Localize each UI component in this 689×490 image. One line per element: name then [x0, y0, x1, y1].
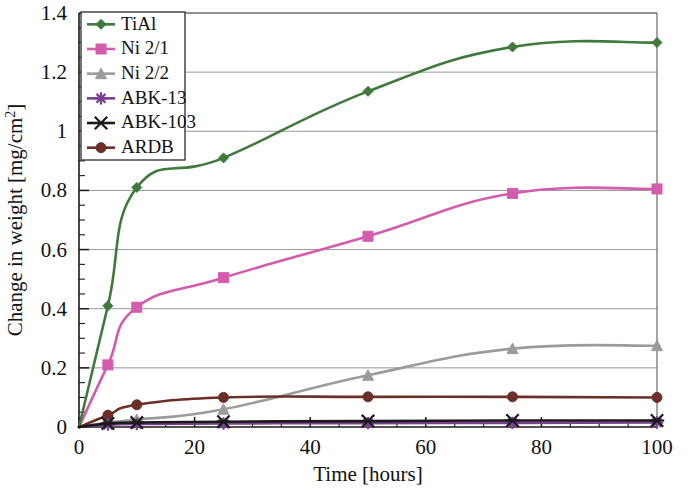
marker-diamond — [219, 153, 229, 163]
marker-star — [217, 417, 229, 429]
marker-diamond — [508, 42, 518, 52]
y-tick-label: 0.8 — [41, 178, 67, 202]
legend-label: ABK-13 — [121, 87, 186, 108]
x-tick-label: 20 — [184, 435, 205, 459]
y-tick-label: 0 — [57, 415, 68, 439]
legend-label: ARDB — [121, 136, 174, 157]
marker-square — [219, 273, 229, 283]
y-axis-title-group: Change in weight [mg/cm2] — [3, 104, 27, 337]
weight-change-line-chart: 00.20.40.60.811.21.4020406080100 Time [h… — [0, 0, 689, 490]
marker-square — [132, 302, 142, 312]
marker-circle — [652, 392, 662, 402]
marker-square — [363, 231, 373, 241]
marker-square — [652, 184, 662, 194]
series-line — [79, 345, 657, 427]
marker-circle — [219, 392, 229, 402]
legend-label: Ni 2/2 — [121, 62, 169, 83]
y-axis-title-tail: ] — [3, 104, 27, 111]
marker-square — [508, 188, 518, 198]
y-axis-title-base: Change in weight [mg/cm — [3, 118, 27, 337]
marker-square — [103, 360, 113, 370]
y-tick-label: 0.4 — [41, 297, 68, 321]
y-tick-label: 1.4 — [41, 1, 68, 25]
x-tick-label: 80 — [531, 435, 552, 459]
y-axis-title-superscript: 2 — [3, 111, 18, 118]
y-tick-label: 0.2 — [41, 356, 67, 380]
marker-star — [506, 417, 518, 429]
marker-circle — [132, 400, 142, 410]
y-axis-title: Change in weight [mg/cm2] — [3, 104, 27, 337]
y-tick-label: 0.6 — [41, 238, 67, 262]
marker-diamond — [363, 86, 373, 96]
marker-circle — [363, 392, 373, 402]
x-tick-label: 0 — [74, 435, 85, 459]
legend-label: TiAl — [121, 13, 156, 34]
series-ni-2-1 — [79, 184, 662, 427]
x-tick-label: 60 — [415, 435, 436, 459]
x-tick-label: 100 — [641, 435, 673, 459]
marker-star — [651, 416, 663, 428]
marker-star — [95, 92, 107, 104]
legend-label: ABK-103 — [121, 111, 196, 132]
series-line — [79, 188, 657, 427]
series-ni-2-2 — [79, 340, 663, 427]
marker-circle — [96, 143, 106, 153]
x-axis-title: Time [hours] — [313, 462, 422, 486]
marker-star — [362, 417, 374, 429]
legend-label: Ni 2/1 — [121, 37, 169, 58]
y-tick-label: 1.2 — [41, 60, 67, 84]
x-tick-label: 40 — [300, 435, 321, 459]
chart-container: 00.20.40.60.811.21.4020406080100 Time [h… — [0, 0, 689, 490]
marker-diamond — [103, 301, 113, 311]
marker-circle — [508, 392, 518, 402]
chart-legend: TiAlNi 2/1Ni 2/2ABK-13ABK-103ARDB — [81, 12, 196, 160]
marker-square — [96, 44, 106, 54]
y-tick-label: 1 — [57, 119, 68, 143]
marker-diamond — [652, 38, 662, 48]
